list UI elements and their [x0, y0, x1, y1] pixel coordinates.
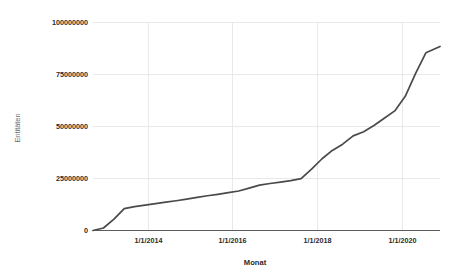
x-axis-title: Monat: [244, 258, 267, 267]
horizontal-gridlines: [93, 23, 440, 179]
y-axis-title: Entitäten: [13, 113, 22, 142]
x-tick-label: 1/1/2018: [304, 236, 332, 245]
y-tick-label: 25000000: [56, 174, 88, 183]
x-tick-label: 1/1/2016: [219, 236, 247, 245]
y-tick-label: 0: [84, 226, 88, 235]
y-tick-label: 50000000: [56, 122, 88, 131]
series-line-entitaeten: [93, 46, 440, 230]
line-chart: 100000000 75000000 50000000 25000000 0 1…: [0, 0, 453, 280]
y-axis-tick-labels: 100000000 75000000 50000000 25000000 0: [52, 18, 88, 235]
y-tick-label: 75000000: [56, 70, 88, 79]
y-tick-label: 100000000: [52, 18, 88, 27]
chart-canvas: 100000000 75000000 50000000 25000000 0 1…: [0, 0, 453, 280]
x-tick-label: 1/1/2014: [135, 236, 163, 245]
x-axis-tick-labels: 1/1/2014 1/1/2016 1/1/2018 1/1/2020: [135, 236, 417, 245]
x-tick-label: 1/1/2020: [389, 236, 417, 245]
